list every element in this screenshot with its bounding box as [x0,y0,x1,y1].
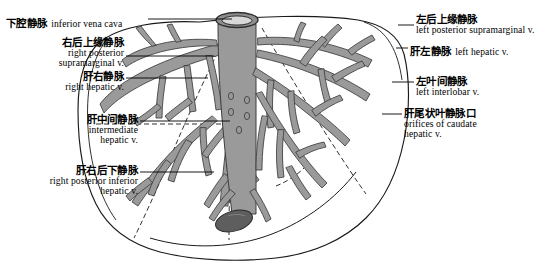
label-right-posterior-inferior-hepatic-vein: 肝右后下静脉 right posterior inferior hepatic … [6,165,138,196]
label-inferior-vena-cava: 下腔静脉 inferior vena cava [6,14,122,31]
label-left-hepatic-vein-en: left hepatic v. [455,46,508,57]
label-left-interlobar-vein: 左叶间静脉 left interlobar v. [416,76,479,97]
label-intermediate-hepatic-vein-en-2: hepatic v. [34,135,138,145]
label-left-posterior-supramarginal-vein: 左后上缘静脉 left posterior supramarginal v. [416,14,534,35]
label-inferior-vena-cava-cn: 下腔静脉 [6,17,47,29]
label-left-hepatic-vein: 肝左静脉 left hepatic v. [410,42,509,59]
label-orifices-of-caudate-hepatic-vein-en-2: hepatic v. [404,129,477,139]
label-right-posterior-supramarginal-vein: 右后上缘静脉 right posterior supramarginal v. [12,37,124,68]
label-right-hepatic-vein-en-1: right hepatic v. [12,82,124,92]
lig-branch-1 [277,130,285,178]
hepatic-vein-anatomy-figure: 下腔静脉 inferior vena cava 右后上缘静脉 right pos… [0,0,555,268]
label-inferior-vena-cava-en: inferior vena cava [51,18,122,29]
label-left-posterior-supramarginal-vein-en-1: left posterior supramarginal v. [416,25,534,35]
label-right-hepatic-vein: 肝右静脉 right hepatic v. [12,71,124,92]
label-right-posterior-supramarginal-vein-en-2: supramarginal v. [12,58,124,68]
label-orifices-of-caudate-hepatic-vein: 肝尾状叶静脉口 orifices of caudate hepatic v. [404,108,477,139]
label-left-hepatic-vein-cn: 肝左静脉 [410,45,451,57]
label-intermediate-hepatic-vein: 肝中间静脉 intermediate hepatic v. [34,114,138,145]
ivc-orifice-lumen [222,16,252,25]
label-right-posterior-inferior-hepatic-vein-en-2: hepatic v. [6,186,138,196]
label-left-interlobar-vein-en-1: left interlobar v. [416,87,479,97]
